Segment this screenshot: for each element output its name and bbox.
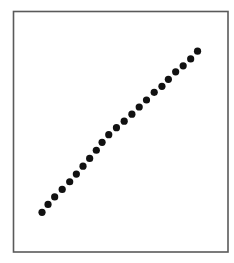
data-point	[172, 68, 179, 75]
data-point	[86, 155, 93, 162]
data-point	[151, 89, 158, 96]
data-point	[44, 201, 51, 208]
data-point	[38, 209, 45, 216]
plot-frame	[14, 12, 229, 253]
data-point	[121, 118, 128, 125]
scatter-chart	[0, 0, 234, 263]
data-point	[51, 193, 58, 200]
data-point	[113, 124, 120, 131]
data-point	[59, 186, 66, 193]
data-point	[158, 83, 165, 90]
data-point	[165, 76, 172, 83]
data-point	[105, 131, 112, 138]
data-point	[128, 111, 135, 118]
data-point	[143, 96, 150, 103]
data-point	[194, 48, 201, 55]
data-point	[73, 170, 80, 177]
data-point	[98, 139, 105, 146]
data-point	[136, 103, 143, 110]
data-point	[187, 55, 194, 62]
data-point	[180, 62, 187, 69]
data-point	[66, 178, 73, 185]
data-point	[93, 147, 100, 154]
data-point	[79, 163, 86, 170]
plot-area	[0, 0, 234, 263]
